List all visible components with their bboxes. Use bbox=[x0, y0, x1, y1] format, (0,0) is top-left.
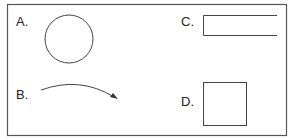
shape-d-square bbox=[204, 83, 247, 126]
label-b: B. bbox=[16, 88, 28, 101]
label-c: C. bbox=[181, 15, 194, 28]
label-a: A. bbox=[16, 15, 28, 28]
shape-c-open-rectangle bbox=[204, 16, 278, 36]
shape-a-circle bbox=[45, 15, 93, 63]
diagram-canvas bbox=[0, 0, 299, 140]
label-d: D. bbox=[181, 95, 194, 108]
shape-b-curved-arrow bbox=[41, 84, 114, 97]
outer-frame bbox=[8, 5, 287, 136]
arrowhead-icon bbox=[110, 93, 118, 99]
